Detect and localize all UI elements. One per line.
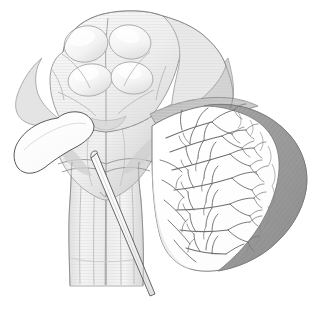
anatomical-illustration-figure: Dorsal view of the brainstem with mid-sa…	[0, 0, 329, 309]
brainstem-cerebellum-svg	[0, 0, 329, 309]
